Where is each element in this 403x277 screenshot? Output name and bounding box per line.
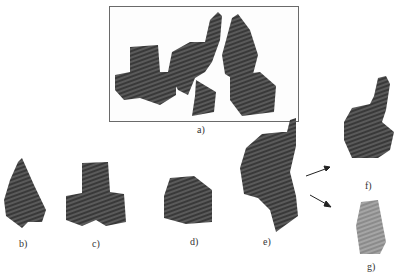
label-c: c) bbox=[92, 238, 100, 249]
shape-g bbox=[356, 200, 386, 254]
label-e: e) bbox=[263, 236, 271, 247]
label-f: f) bbox=[365, 180, 372, 191]
label-b: b) bbox=[19, 238, 27, 249]
arrows bbox=[306, 166, 331, 207]
shape-d bbox=[164, 176, 212, 224]
figure-shapes bbox=[0, 0, 403, 277]
shape-e bbox=[240, 118, 298, 232]
scene-a bbox=[115, 12, 276, 116]
label-g: g) bbox=[367, 261, 375, 272]
label-a: a) bbox=[197, 124, 205, 135]
shape-f bbox=[344, 76, 394, 158]
shape-b bbox=[4, 158, 46, 228]
shape-c bbox=[66, 162, 126, 226]
label-d: d) bbox=[190, 236, 198, 247]
